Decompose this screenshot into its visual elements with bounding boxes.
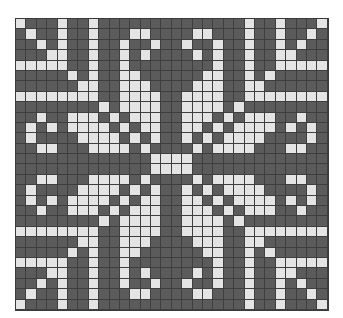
stitch-cell-light: [234, 144, 244, 154]
stitch-cell-dark: [151, 258, 161, 268]
stitch-cell-light: [37, 175, 47, 185]
stitch-cell-dark: [297, 248, 307, 258]
stitch-cell-dark: [234, 289, 244, 299]
stitch-cell-light: [193, 289, 203, 299]
stitch-cell-dark: [47, 102, 57, 112]
stitch-cell-dark: [47, 216, 57, 226]
stitch-cell-light: [255, 123, 265, 133]
stitch-cell-light: [99, 133, 109, 143]
stitch-cell-light: [317, 227, 327, 237]
stitch-cell-dark: [110, 248, 120, 258]
stitch-cell-dark: [68, 154, 78, 164]
stitch-cell-dark: [110, 216, 120, 226]
stitch-cell-dark: [110, 300, 120, 310]
stitch-cell-light: [47, 227, 57, 237]
stitch-cell-dark: [297, 19, 307, 29]
stitch-cell-dark: [68, 289, 78, 299]
stitch-cell-dark: [58, 144, 68, 154]
stitch-cell-light: [37, 40, 47, 50]
stitch-cell-light: [234, 216, 244, 226]
stitch-cell-dark: [255, 40, 265, 50]
stitch-cell-light: [213, 175, 223, 185]
stitch-cell-dark: [265, 258, 275, 268]
stitch-cell-dark: [16, 248, 26, 258]
stitch-cell-dark: [99, 61, 109, 71]
stitch-cell-dark: [203, 175, 213, 185]
stitch-cell-dark: [317, 185, 327, 195]
stitch-cell-dark: [26, 144, 36, 154]
stitch-cell-light: [307, 196, 317, 206]
stitch-cell-dark: [120, 289, 130, 299]
stitch-cell-dark: [245, 102, 255, 112]
stitch-cell-dark: [16, 289, 26, 299]
stitch-cell-dark: [317, 196, 327, 206]
stitch-cell-dark: [307, 206, 317, 216]
stitch-cell-light: [193, 206, 203, 216]
stitch-cell-light: [130, 248, 140, 258]
stitch-cell-dark: [224, 40, 234, 50]
stitch-cell-light: [182, 164, 192, 174]
stitch-cell-light: [245, 123, 255, 133]
stitch-cell-dark: [161, 123, 171, 133]
stitch-cell-dark: [182, 144, 192, 154]
stitch-cell-dark: [245, 216, 255, 226]
stitch-cell-dark: [224, 50, 234, 60]
stitch-cell-light: [68, 92, 78, 102]
stitch-cell-dark: [16, 164, 26, 174]
stitch-cell-dark: [224, 19, 234, 29]
stitch-cell-light: [307, 123, 317, 133]
stitch-cell-dark: [26, 40, 36, 50]
stitch-cell-light: [151, 206, 161, 216]
stitch-cell-dark: [151, 71, 161, 81]
stitch-cell-light: [245, 71, 255, 81]
stitch-cell-dark: [297, 50, 307, 60]
stitch-cell-dark: [130, 175, 140, 185]
stitch-cell-dark: [182, 61, 192, 71]
stitch-cell-dark: [16, 40, 26, 50]
stitch-cell-light: [47, 196, 57, 206]
stitch-cell-dark: [47, 40, 57, 50]
stitch-cell-light: [26, 258, 36, 268]
stitch-cell-light: [110, 133, 120, 143]
stitch-cell-light: [151, 227, 161, 237]
stitch-cell-light: [89, 206, 99, 216]
stitch-cell-light: [203, 113, 213, 123]
stitch-cell-dark: [110, 258, 120, 268]
stitch-cell-dark: [224, 300, 234, 310]
stitch-cell-light: [286, 268, 296, 278]
stitch-cell-dark: [151, 61, 161, 71]
stitch-cell-dark: [37, 164, 47, 174]
stitch-cell-dark: [161, 248, 171, 258]
stitch-cell-light: [255, 133, 265, 143]
stitch-cell-light: [89, 185, 99, 195]
stitch-cell-dark: [161, 19, 171, 29]
stitch-cell-dark: [89, 154, 99, 164]
stitch-cell-light: [130, 237, 140, 247]
stitch-cell-light: [151, 196, 161, 206]
stitch-cell-light: [68, 206, 78, 216]
stitch-cell-light: [47, 144, 57, 154]
stitch-cell-dark: [26, 206, 36, 216]
stitch-cell-light: [193, 92, 203, 102]
stitch-cell-dark: [307, 19, 317, 29]
stitch-cell-dark: [161, 279, 171, 289]
stitch-cell-dark: [265, 268, 275, 278]
knitting-pattern-grid: [16, 19, 328, 310]
stitch-cell-light: [213, 61, 223, 71]
stitch-cell-light: [110, 175, 120, 185]
stitch-cell-dark: [16, 279, 26, 289]
stitch-cell-light: [151, 133, 161, 143]
stitch-cell-dark: [58, 164, 68, 174]
stitch-cell-dark: [286, 154, 296, 164]
stitch-cell-light: [141, 175, 151, 185]
stitch-cell-dark: [182, 248, 192, 258]
stitch-cell-dark: [68, 50, 78, 60]
stitch-cell-dark: [110, 164, 120, 174]
stitch-cell-dark: [16, 196, 26, 206]
stitch-cell-dark: [78, 19, 88, 29]
stitch-cell-light: [213, 216, 223, 226]
stitch-cell-dark: [276, 144, 286, 154]
stitch-cell-dark: [26, 154, 36, 164]
stitch-cell-dark: [172, 61, 182, 71]
stitch-cell-light: [213, 50, 223, 60]
